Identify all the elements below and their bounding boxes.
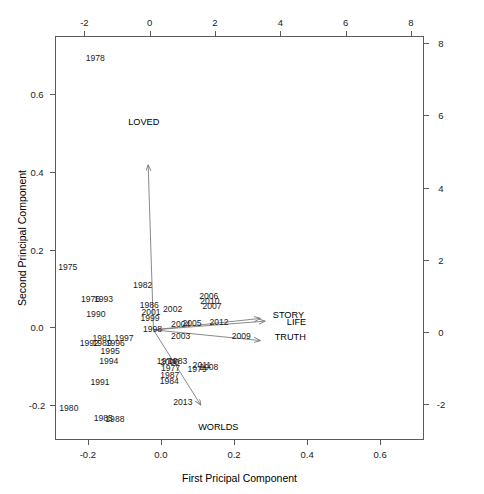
variable-label-worlds: WORLDS xyxy=(198,422,238,432)
tick-mark xyxy=(150,31,151,36)
x-tick-label: 0.6 xyxy=(374,449,387,460)
x-tick-label: -0.2 xyxy=(80,449,96,460)
year-point-label: 2003 xyxy=(171,331,190,341)
tick-mark xyxy=(50,94,55,95)
year-point-label: 1991 xyxy=(90,377,109,387)
x-tick-label: 0.2 xyxy=(227,449,240,460)
year-point-label: 1988 xyxy=(105,414,124,424)
tick-mark xyxy=(84,31,85,36)
y-axis-title: Second Principal Component xyxy=(16,170,28,306)
tick-mark xyxy=(307,440,308,445)
year-point-label: 1987 xyxy=(160,370,179,380)
x-tick-label: 0.0 xyxy=(154,449,167,460)
year-point-label: 2001 xyxy=(142,307,161,317)
tick-mark xyxy=(424,260,429,261)
y-tick-label: 0.4 xyxy=(30,166,43,177)
variable-label-life: LIFE xyxy=(287,317,306,327)
year-point-label: 1993 xyxy=(94,294,113,304)
year-point-label: 1982 xyxy=(133,280,152,290)
right-tick-label: 6 xyxy=(438,110,443,121)
tick-mark xyxy=(346,31,347,36)
tick-mark xyxy=(215,31,216,36)
y-tick-label: 0.2 xyxy=(30,244,43,255)
right-tick-label: 2 xyxy=(438,254,443,265)
tick-mark xyxy=(424,115,429,116)
year-point-label: 1998 xyxy=(143,324,162,334)
tick-mark xyxy=(50,327,55,328)
y-tick-label: 0.6 xyxy=(30,89,43,100)
year-point-label: 2002 xyxy=(163,304,182,314)
year-point-label: 1980 xyxy=(59,403,78,413)
year-point-label: 2009 xyxy=(232,331,251,341)
plot-frame xyxy=(55,36,424,440)
pca-biplot: -0.20.00.20.40.6-0.20.00.20.40.6-202468-… xyxy=(0,0,484,494)
year-point-label: 2000 xyxy=(160,357,179,367)
y-tick-label: 0.0 xyxy=(30,322,43,333)
year-point-label: 2013 xyxy=(173,397,192,407)
top-tick-label: 0 xyxy=(147,17,152,28)
top-tick-label: -2 xyxy=(80,17,88,28)
right-tick-label: 8 xyxy=(438,38,443,49)
top-tick-label: 6 xyxy=(343,17,348,28)
tick-mark xyxy=(234,440,235,445)
right-tick-label: 4 xyxy=(438,182,443,193)
tick-mark xyxy=(50,250,55,251)
tick-mark xyxy=(411,31,412,36)
year-point-label: 2005 xyxy=(182,318,201,328)
tick-mark xyxy=(50,405,55,406)
year-point-label: 1992 xyxy=(80,338,99,348)
tick-mark xyxy=(424,332,429,333)
tick-mark xyxy=(161,440,162,445)
x-axis-title: First Pricipal Component xyxy=(182,472,297,484)
top-tick-label: 4 xyxy=(278,17,283,28)
tick-mark xyxy=(50,172,55,173)
year-point-label: 1997 xyxy=(114,333,133,343)
chart-title-clipped xyxy=(0,0,484,9)
top-tick-label: 2 xyxy=(212,17,217,28)
year-point-label: 1978 xyxy=(86,53,105,63)
year-point-label: 1994 xyxy=(99,356,118,366)
variable-label-truth: TRUTH xyxy=(275,332,306,342)
top-tick-label: 8 xyxy=(408,17,413,28)
tick-mark xyxy=(88,440,89,445)
year-point-label: 1975 xyxy=(58,262,77,272)
tick-mark xyxy=(424,404,429,405)
x-tick-label: 0.4 xyxy=(300,449,313,460)
year-point-label: 2012 xyxy=(209,317,228,327)
year-point-label: 2010 xyxy=(200,296,219,306)
tick-mark xyxy=(380,440,381,445)
tick-mark xyxy=(424,188,429,189)
tick-mark xyxy=(424,43,429,44)
year-point-label: 2011 xyxy=(193,360,211,370)
tick-mark xyxy=(280,31,281,36)
variable-label-loved: LOVED xyxy=(128,117,159,127)
right-tick-label: -2 xyxy=(437,398,445,409)
right-tick-label: 0 xyxy=(438,326,443,337)
y-tick-label: -0.2 xyxy=(29,400,45,411)
year-point-label: 1990 xyxy=(86,309,105,319)
